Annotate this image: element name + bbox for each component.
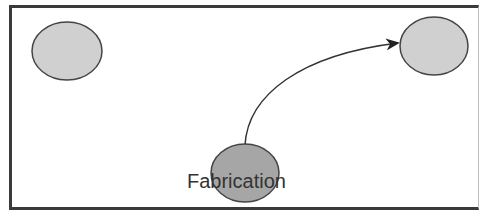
node-top-right[interactable] [400,17,468,75]
node-top-left[interactable] [32,22,102,80]
edge-fabrication-to-top-right [245,43,398,145]
node-fabrication-label: Fabrication [187,170,286,193]
diagram-canvas: Fabrication [0,0,489,219]
